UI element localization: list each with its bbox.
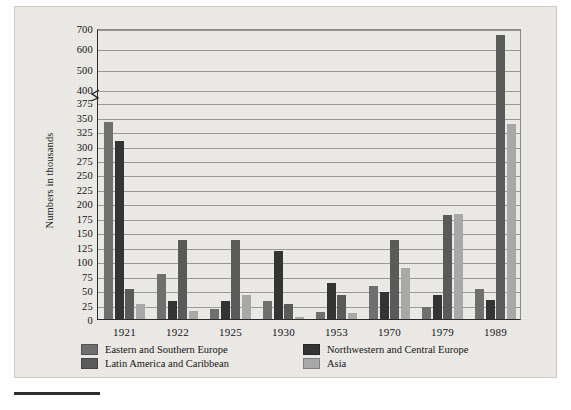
bar[interactable]: [433, 295, 442, 319]
bar[interactable]: [507, 124, 516, 319]
bar[interactable]: [337, 295, 346, 319]
legend-swatch-icon: [303, 358, 320, 369]
bar[interactable]: [263, 301, 272, 319]
y-tick-label: 700: [53, 24, 93, 35]
bar[interactable]: [231, 240, 240, 319]
figure-panel: Numbers in thousands 0255075100125150175…: [14, 6, 557, 378]
bar[interactable]: [380, 292, 389, 319]
y-tick-label: 125: [53, 242, 93, 253]
y-tick-label: 150: [53, 228, 93, 239]
bar[interactable]: [178, 240, 187, 319]
bar[interactable]: [496, 35, 505, 319]
legend-label: Northwestern and Central Europe: [327, 344, 468, 355]
bar[interactable]: [274, 251, 283, 319]
bar[interactable]: [242, 295, 251, 319]
y-tick-label: 225: [53, 184, 93, 195]
y-tick-label: 375: [53, 98, 93, 109]
bar[interactable]: [422, 307, 431, 319]
bar[interactable]: [327, 283, 336, 319]
legend-swatch-icon: [81, 358, 98, 369]
y-tick-label: 25: [53, 300, 93, 311]
y-tick-label: 175: [53, 213, 93, 224]
y-tick-label: 50: [53, 286, 93, 297]
bar[interactable]: [454, 214, 463, 319]
bar[interactable]: [295, 317, 304, 319]
bar[interactable]: [348, 313, 357, 319]
plot-area: 19211922192519301953197019791989: [97, 29, 521, 320]
bar[interactable]: [316, 312, 325, 320]
bar[interactable]: [401, 268, 410, 319]
y-tick-label: 0: [53, 315, 93, 326]
bar-group: 1930: [263, 30, 304, 319]
legend-swatch-icon: [303, 344, 320, 355]
legend-row: Latin America and Caribbean Asia: [81, 358, 501, 369]
y-tick-label: 325: [53, 127, 93, 138]
bar[interactable]: [168, 301, 177, 319]
legend-item-asia[interactable]: Asia: [303, 358, 346, 369]
bar-group: 1989: [475, 30, 516, 319]
bar[interactable]: [115, 141, 124, 319]
bar[interactable]: [125, 289, 134, 319]
bar[interactable]: [136, 304, 145, 319]
bar-group: 1921: [104, 30, 145, 319]
y-tick-label: 250: [53, 170, 93, 181]
bar[interactable]: [189, 311, 198, 319]
y-tick-label: 500: [53, 64, 93, 75]
y-tick-label: 75: [53, 271, 93, 282]
legend-label: Asia: [327, 358, 346, 369]
x-tick-label: 1989: [461, 326, 531, 338]
bar[interactable]: [210, 309, 219, 319]
y-tick-label: 100: [53, 257, 93, 268]
legend-label: Eastern and Southern Europe: [105, 344, 228, 355]
y-tick-label: 400: [53, 85, 93, 96]
bar-group: 1970: [369, 30, 410, 319]
bar[interactable]: [221, 301, 230, 319]
bar-group: 1953: [316, 30, 357, 319]
y-tick-label: 350: [53, 112, 93, 123]
y-tick-label: 200: [53, 199, 93, 210]
bar-group: 1925: [210, 30, 251, 319]
y-tick-label: 300: [53, 141, 93, 152]
legend-label: Latin America and Caribbean: [105, 358, 229, 369]
legend-item-latin-america-caribbean[interactable]: Latin America and Caribbean: [81, 358, 303, 369]
y-axis-ticks: 0255075100125150175200225250275300325350…: [51, 29, 93, 320]
bar[interactable]: [443, 215, 452, 319]
bottom-rule-divider: [14, 392, 100, 395]
gridline: [98, 321, 520, 322]
chart-page: Numbers in thousands 0255075100125150175…: [0, 0, 571, 410]
bar[interactable]: [390, 240, 399, 319]
legend-item-eastern-southern-europe[interactable]: Eastern and Southern Europe: [81, 344, 303, 355]
bar[interactable]: [157, 274, 166, 319]
legend-item-northwestern-central-europe[interactable]: Northwestern and Central Europe: [303, 344, 468, 355]
bar[interactable]: [284, 304, 293, 319]
bar[interactable]: [475, 289, 484, 319]
bar[interactable]: [104, 122, 113, 319]
chart-legend: Eastern and Southern Europe Northwestern…: [81, 344, 501, 372]
bar[interactable]: [486, 300, 495, 319]
legend-swatch-icon: [81, 344, 98, 355]
y-tick-label: 600: [53, 44, 93, 55]
bar-group: 1922: [157, 30, 198, 319]
y-tick-label: 275: [53, 156, 93, 167]
bar-group: 1979: [422, 30, 463, 319]
legend-row: Eastern and Southern Europe Northwestern…: [81, 344, 501, 355]
bar[interactable]: [369, 286, 378, 319]
